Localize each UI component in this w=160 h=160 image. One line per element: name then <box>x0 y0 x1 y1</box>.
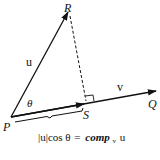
point-label-P: P <box>2 120 11 134</box>
projection-diagram: R P Q S u v θ |u|cos θ = comp v u <box>0 0 160 160</box>
vector-label-v: v <box>117 80 123 94</box>
formula-subscript: v <box>113 137 117 145</box>
projection-arrow <box>11 104 84 117</box>
perpendicular-dashed-line <box>70 16 86 101</box>
point-label-S: S <box>83 108 89 122</box>
right-angle-mark <box>85 95 94 101</box>
vector-label-u: u <box>26 55 32 69</box>
formula-lhs: |u|cos θ <box>38 131 71 143</box>
formula: |u|cos θ = comp v u <box>38 131 126 145</box>
formula-equals: = <box>74 131 80 143</box>
angle-label-theta: θ <box>27 97 33 109</box>
formula-comp: comp <box>85 131 110 143</box>
formula-arg: u <box>120 131 126 143</box>
vector-u-arrow <box>11 12 68 117</box>
point-label-Q: Q <box>148 97 157 111</box>
point-label-R: R <box>63 1 72 15</box>
